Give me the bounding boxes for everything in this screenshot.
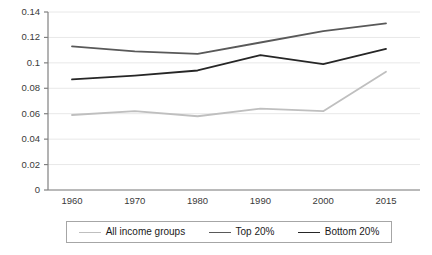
chart-legend: All income groupsTop 20%Bottom 20% bbox=[66, 221, 392, 243]
x-axis-tick-label: 1970 bbox=[105, 196, 165, 206]
legend-color-swatch bbox=[79, 232, 101, 233]
legend-entry: Bottom 20% bbox=[298, 227, 379, 237]
series-line bbox=[72, 72, 386, 117]
series-line bbox=[72, 49, 386, 80]
x-axis-tick-label: 2015 bbox=[356, 196, 416, 206]
y-axis-tick-label: 0.06 bbox=[0, 109, 40, 119]
y-axis-tick-label: 0.04 bbox=[0, 134, 40, 144]
line-chart: 00.020.040.060.080.10.120.14 19601970198… bbox=[0, 0, 432, 255]
legend-label: Bottom 20% bbox=[325, 227, 379, 237]
y-axis-tick-label: 0.08 bbox=[0, 83, 40, 93]
y-axis-tick-label: 0.02 bbox=[0, 160, 40, 170]
chart-plot-area bbox=[0, 0, 432, 255]
y-axis-tick-label: 0.14 bbox=[0, 7, 40, 17]
legend-entry: Top 20% bbox=[209, 227, 275, 237]
x-axis-tick-label: 1980 bbox=[168, 196, 228, 206]
legend-entry: All income groups bbox=[79, 227, 185, 237]
y-axis-tick-label: 0 bbox=[0, 185, 40, 195]
y-axis-tick-label: 0.12 bbox=[0, 32, 40, 42]
x-axis-tick-label: 1990 bbox=[230, 196, 290, 206]
x-axis-tick-label: 1960 bbox=[42, 196, 102, 206]
series-line bbox=[72, 23, 386, 54]
y-axis-tick-label: 0.1 bbox=[0, 58, 40, 68]
legend-color-swatch bbox=[209, 232, 231, 233]
legend-label: All income groups bbox=[106, 227, 185, 237]
legend-color-swatch bbox=[298, 232, 320, 233]
legend-label: Top 20% bbox=[236, 227, 275, 237]
x-axis-tick-label: 2000 bbox=[293, 196, 353, 206]
